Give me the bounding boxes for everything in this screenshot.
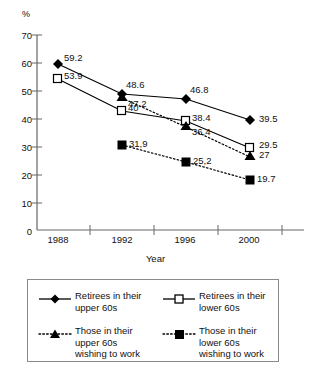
chart-legend: Retirees in theirupper 60s Retirees in t… [27,279,279,362]
legend-label-retirees-lower-60s: Retirees in theirlower 60s [199,290,266,313]
data-label-s1-1988: 53.9 [64,71,83,81]
legend-item-retirees-upper-60s[interactable]: Retirees in theirupper 60s [38,290,142,313]
legend-label-upper-60s-wishing-to-work: Those in theirupper 60swishing to work [75,325,140,360]
data-label-s0-2000: 39.5 [259,114,278,124]
data-label-s0-1988: 59.2 [64,53,83,63]
series-line-retirees-upper-60s [58,64,250,120]
chart-container: % 70 60 50 40 30 20 10 0 1988 1992 1996 … [0,0,311,372]
filled-triangle-dotted-line-icon [38,326,72,338]
data-label-s0-1996: 46.8 [190,85,209,95]
legend-item-lower-60s-wishing-to-work[interactable]: Those in theirlower 60swishing to work [162,325,264,360]
filled-diamond-solid-line-icon [38,291,72,303]
data-label-s2-2000: 27 [259,150,270,160]
legend-line1: Retirees in their [75,290,142,301]
data-label-s2-1996: 36.4 [192,127,211,137]
series-line-retirees-lower-60s [58,79,250,148]
data-label-s2-1992: 47.2 [128,99,147,109]
series-markers-retirees-lower-60s [54,75,254,152]
legend-line1: Retirees in their [199,290,266,301]
data-label-s3-1996: 25,2 [193,156,212,166]
chart-svg [0,0,311,275]
legend-line3: wishing to work [75,348,140,359]
data-label-s0-1992: 48.6 [126,80,145,90]
data-label-s3-2000: 19.7 [257,174,276,184]
legend-item-retirees-lower-60s[interactable]: Retirees in theirlower 60s [162,290,266,313]
legend-line2: upper 60s [75,302,117,313]
legend-line3: wishing to work [199,348,264,359]
legend-item-upper-60s-wishing-to-work[interactable]: Those in theirupper 60swishing to work [38,325,140,360]
legend-line2: lower 60s [199,302,240,313]
filled-square-dotted-line-icon [162,326,196,338]
legend-label-retirees-upper-60s: Retirees in theirupper 60s [75,290,142,313]
data-label-s1-1996: 38.4 [192,113,211,123]
data-label-s3-1992: 31,9 [129,139,148,149]
legend-line2: lower 60s [199,337,240,348]
plot-area: % 70 60 50 40 30 20 10 0 1988 1992 1996 … [0,0,311,275]
legend-line1: Those in their [199,325,257,336]
legend-label-lower-60s-wishing-to-work: Those in theirlower 60swishing to work [199,325,264,360]
legend-line2: upper 60s [75,337,117,348]
legend-line1: Those in their [75,325,133,336]
open-square-solid-line-icon [162,291,196,303]
